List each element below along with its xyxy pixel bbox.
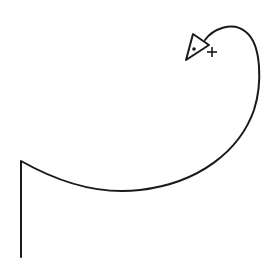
turtle-path — [21, 27, 259, 257]
turtle-drawing-canvas — [0, 0, 274, 262]
plus-marker-icon — [207, 47, 217, 57]
turtle-center-dot — [192, 47, 196, 51]
